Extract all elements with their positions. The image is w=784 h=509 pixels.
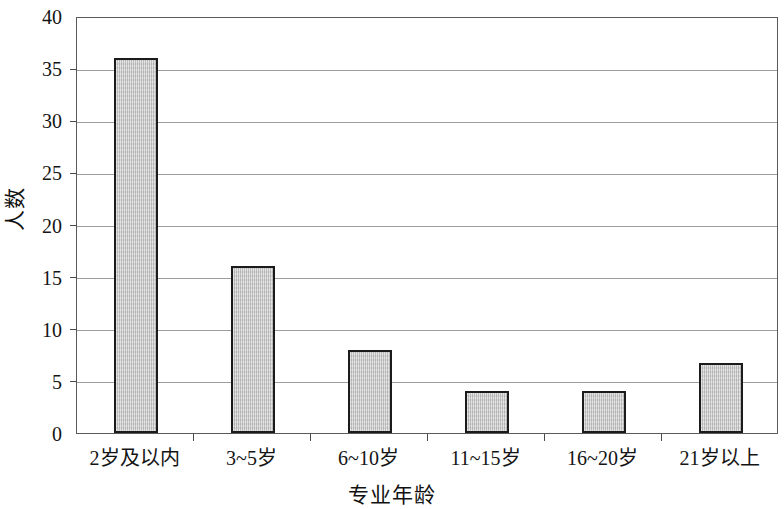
y-axis-tick-label: 25 [42,163,62,183]
y-axis-tick-label: 30 [42,111,62,131]
y-axis-tick-mark [70,277,77,278]
y-axis-tick-mark [70,381,77,382]
x-axis-tick-mark [193,434,194,441]
x-axis-tick-label: 2岁及以内 [76,443,193,473]
y-axis-tick-label: 20 [42,216,62,236]
y-axis-tick-label: 15 [42,268,62,288]
x-axis-tick-label: 16~20岁 [544,443,661,473]
x-axis-tick-labels: 2岁及以内3~5岁6~10岁11~15岁16~20岁21岁以上 [76,443,778,477]
x-axis-tick-mark [544,434,545,441]
y-axis-tick-mark [70,69,77,70]
y-axis-tick-mark [70,121,77,122]
bar [231,266,275,433]
x-axis-tick-mark [310,434,311,441]
x-axis-tick-label: 21岁以上 [661,443,778,473]
bar [114,58,158,433]
y-axis-tick-label: 35 [42,59,62,79]
bar [582,391,626,433]
bar [699,363,743,433]
x-axis-tick-label: 3~5岁 [193,443,310,473]
y-axis-tick-label: 0 [52,424,62,444]
x-axis-title: 专业年龄 [0,481,784,509]
y-axis-tick-mark [70,173,77,174]
x-axis-tick-label: 6~10岁 [310,443,427,473]
bars [77,18,777,433]
x-axis-tick-mark [661,434,662,441]
x-axis-tick-label: 11~15岁 [427,443,544,473]
bar-chart: 人数 0510152025303540 2岁及以内3~5岁6~10岁11~15岁… [0,0,784,509]
y-axis-tick-mark [70,329,77,330]
y-axis-tick-labels: 0510152025303540 [0,0,68,509]
x-axis-tick-mark [427,434,428,441]
bar [465,391,509,433]
y-axis-tick-mark [70,225,77,226]
y-axis-tick-label: 5 [52,372,62,392]
y-axis-tick-label: 40 [42,7,62,27]
bar [348,350,392,433]
y-axis-tick-label: 10 [42,320,62,340]
plot-area [76,17,778,434]
